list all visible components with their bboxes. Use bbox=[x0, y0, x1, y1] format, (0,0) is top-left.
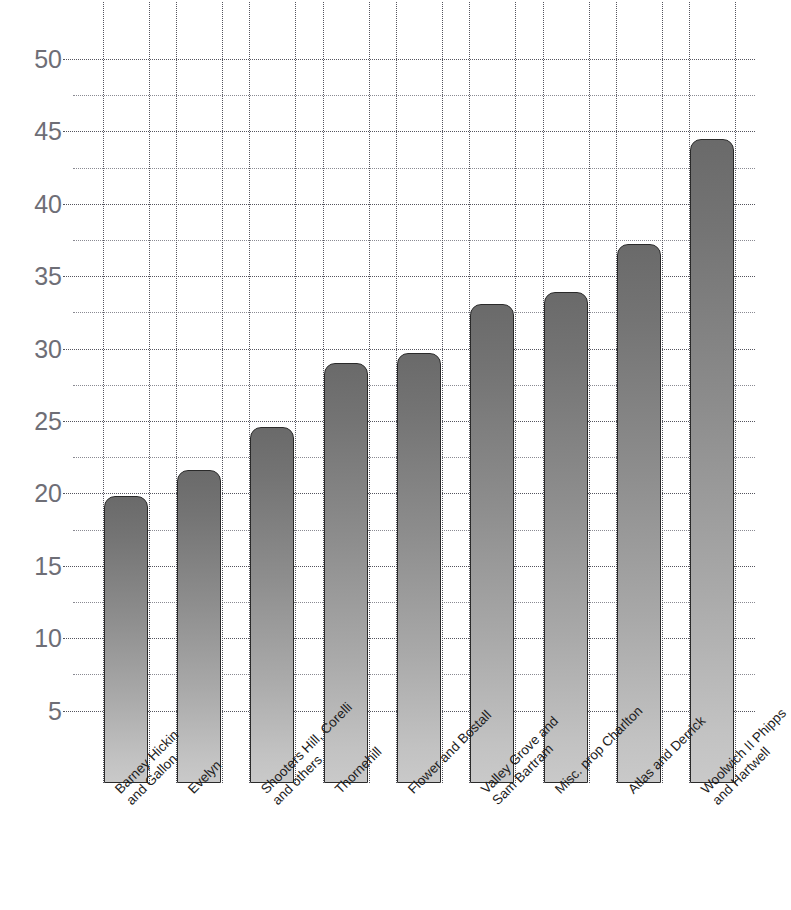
x-axis-labels: Barney Hickin and GallonEvelynShooters H… bbox=[95, 786, 785, 910]
y-axis-tick-label: 5 bbox=[48, 698, 62, 723]
y-axis-tick-label: 20 bbox=[34, 481, 62, 506]
bar bbox=[104, 496, 148, 783]
bar bbox=[177, 470, 221, 783]
y-axis-tick-label: 35 bbox=[34, 264, 62, 289]
y-axis-tick-label: 10 bbox=[34, 626, 62, 651]
bar bbox=[470, 304, 514, 783]
y-axis-tick-label: 40 bbox=[34, 191, 62, 216]
y-axis-tick-label: 30 bbox=[34, 336, 62, 361]
clipped-title-text bbox=[200, 0, 785, 3]
y-axis-tick-label: 45 bbox=[34, 119, 62, 144]
bar bbox=[617, 244, 661, 783]
bar bbox=[250, 427, 294, 783]
bar bbox=[397, 353, 441, 783]
y-axis-labels: 5101520253035404550 bbox=[0, 30, 62, 783]
bars bbox=[95, 30, 755, 783]
y-axis-tick-label: 50 bbox=[34, 46, 62, 71]
plot-area bbox=[95, 30, 755, 783]
bar bbox=[690, 139, 734, 783]
y-axis-tick-label: 15 bbox=[34, 553, 62, 578]
bar bbox=[544, 292, 588, 783]
y-axis-tick-label: 25 bbox=[34, 408, 62, 433]
